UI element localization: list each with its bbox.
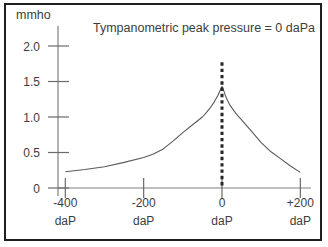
chart-title: Tympanometric peak pressure = 0 daPa (93, 21, 315, 35)
tympanogram-plot: 00.51.01.52.0-400daP-200daP0daP+200daP (0, 0, 328, 247)
x-tick-unit-label: daP (55, 214, 76, 228)
y-tick-label: 0.5 (23, 146, 40, 160)
tympanogram-curve (65, 87, 300, 173)
tympanogram-figure: 00.51.01.52.0-400daP-200daP0daP+200daP m… (0, 0, 328, 247)
x-tick-label: +200 (287, 196, 314, 210)
x-tick-unit-label: daP (133, 214, 154, 228)
y-tick-label: 1.5 (23, 75, 40, 89)
x-tick-unit-label: daP (211, 214, 232, 228)
x-tick-label: 0 (219, 196, 226, 210)
x-tick-label: -200 (132, 196, 156, 210)
y-axis-unit-label: mmho (16, 8, 51, 22)
y-tick-label: 1.0 (23, 111, 40, 125)
x-tick-label: -400 (53, 196, 77, 210)
y-tick-label: 2.0 (23, 40, 40, 54)
x-tick-unit-label: daP (290, 214, 311, 228)
y-tick-label: 0 (33, 182, 40, 196)
